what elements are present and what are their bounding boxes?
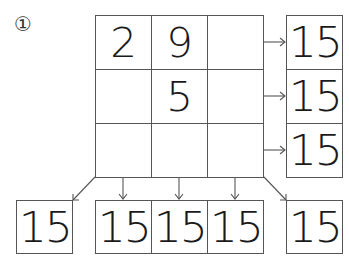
arrow-down-icon xyxy=(231,178,239,199)
arrow-down-right-icon xyxy=(264,177,286,200)
arrow-down-left-icon xyxy=(73,177,95,200)
arrow-right-icon xyxy=(264,38,285,46)
arrow-down-icon xyxy=(175,178,183,199)
arrow-right-icon xyxy=(264,92,285,100)
sum-arrows xyxy=(0,0,349,267)
arrow-right-icon xyxy=(264,146,285,154)
arrow-down-icon xyxy=(119,178,127,199)
